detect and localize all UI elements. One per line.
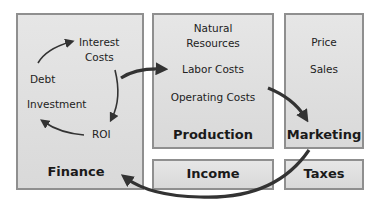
production-item-resources: Resources <box>186 37 240 49</box>
debt-to-interest-arrow <box>38 42 70 63</box>
production-title: Production <box>173 127 253 142</box>
marketing-title: Marketing <box>287 127 361 142</box>
finance-item-debt: Debt <box>30 73 55 85</box>
taxes-title: Taxes <box>304 166 345 181</box>
income-title: Income <box>186 166 239 181</box>
production-item-operating-costs: Operating Costs <box>171 91 256 103</box>
roi-to-investment-arrow <box>44 122 84 135</box>
costs-to-roi-arrow <box>112 70 118 118</box>
production-item-natural: Natural <box>194 22 233 34</box>
marketing-item-sales: Sales <box>310 63 338 75</box>
marketing-item-price: Price <box>311 36 337 48</box>
finance-item-costs: Costs <box>85 51 114 63</box>
production-to-marketing-arrow <box>268 88 305 117</box>
finance-item-investment: Investment <box>27 98 86 110</box>
finance-to-production-arrow <box>121 69 162 78</box>
production-item-labor-costs: Labor Costs <box>182 63 244 75</box>
finance-title: Finance <box>47 164 104 179</box>
finance-item-interest: Interest <box>79 36 119 48</box>
finance-item-roi: ROI <box>92 128 111 140</box>
